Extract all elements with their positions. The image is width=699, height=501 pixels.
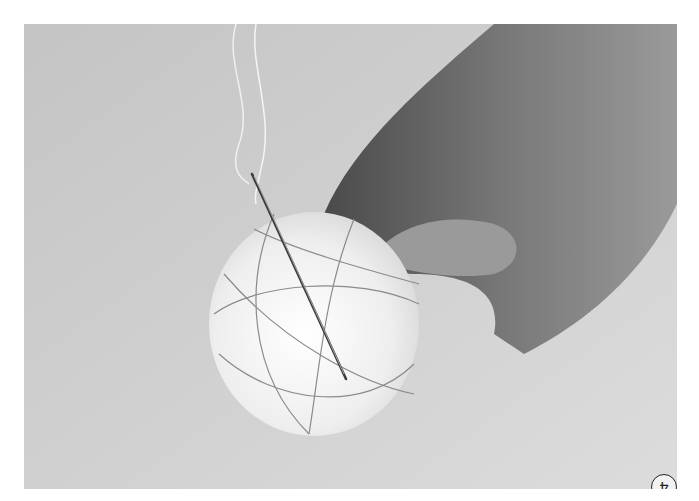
- photo-illustration: [24, 24, 677, 489]
- photo: 4: [24, 24, 677, 489]
